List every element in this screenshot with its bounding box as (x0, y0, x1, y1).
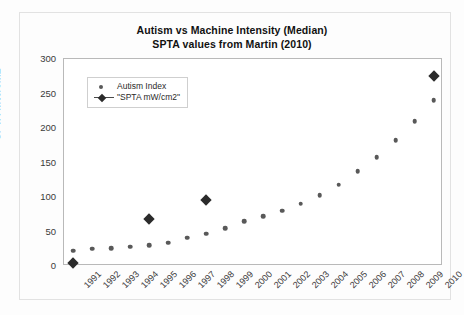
y-tick-label: 250 (22, 87, 56, 98)
legend-label: Autism Index (115, 81, 166, 92)
data-point (223, 226, 228, 231)
data-point (242, 219, 247, 224)
data-point (128, 244, 133, 249)
data-point (412, 119, 417, 124)
data-point (318, 193, 323, 198)
y-tick-label: 0 (22, 260, 56, 271)
data-point (428, 71, 439, 82)
y-tick-label: 150 (22, 156, 56, 167)
data-point (200, 194, 211, 205)
data-point (336, 182, 341, 187)
data-point (109, 246, 114, 251)
data-point (393, 138, 398, 143)
y-tick-label: 100 (22, 191, 56, 202)
data-point (431, 98, 436, 103)
data-point (71, 249, 76, 254)
data-point (280, 209, 285, 214)
data-point (185, 235, 190, 240)
data-point (90, 246, 95, 251)
legend-item-spta: "SPTA mW/cm2" (93, 92, 180, 103)
legend-item-autism-index: Autism Index (93, 81, 180, 92)
y-tick-label: 300 (22, 53, 56, 64)
data-point (261, 214, 266, 219)
data-point (355, 169, 360, 174)
data-point (204, 231, 209, 236)
legend-label: "SPTA mW/cm2" (115, 92, 180, 103)
data-point (374, 155, 379, 160)
diamond-marker-icon (93, 92, 115, 103)
data-point (299, 202, 304, 207)
data-point (166, 240, 171, 245)
data-point (144, 213, 155, 224)
circle-marker-icon (93, 81, 115, 92)
y-tick-label: 200 (22, 122, 56, 133)
chart-figure: Autism vs Machine Intensity (Median) SPT… (0, 0, 464, 315)
chart-legend: Autism Index "SPTA mW/cm2" (87, 77, 188, 108)
data-point (147, 243, 152, 248)
y-tick-label: 50 (22, 225, 56, 236)
